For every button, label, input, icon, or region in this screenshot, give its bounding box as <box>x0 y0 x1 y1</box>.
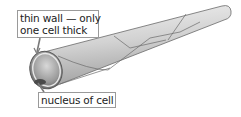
label-thin-wall-line1: thin wall — only <box>20 12 96 24</box>
label-thin-wall-line2: one cell thick <box>20 24 96 36</box>
label-nucleus: nucleus of cell <box>38 92 116 108</box>
label-nucleus-text: nucleus of cell <box>41 94 113 106</box>
nucleus <box>34 79 46 85</box>
label-thin-wall: thin wall — only one cell thick <box>17 10 99 38</box>
